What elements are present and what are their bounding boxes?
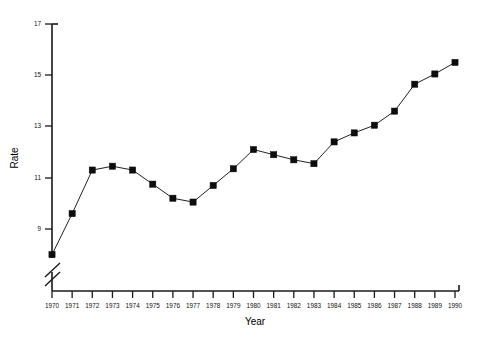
- x-tick-label-1970: 1970: [45, 302, 60, 309]
- data-point-1990: [452, 59, 458, 65]
- data-point-1979: [230, 166, 236, 172]
- y-tick-label-15: 15: [34, 71, 42, 78]
- data-point-1989: [432, 71, 438, 77]
- y-tick-label-13: 13: [34, 122, 42, 129]
- x-tick-label-1988: 1988: [408, 302, 423, 309]
- data-point-1972: [89, 167, 95, 173]
- data-point-1983: [311, 161, 317, 167]
- y-tick-label-9: 9: [37, 225, 41, 232]
- data-point-1974: [130, 167, 136, 173]
- x-tick-labels: 1970197119721973197419751976197719781979…: [45, 302, 463, 309]
- x-tick-label-1972: 1972: [85, 302, 100, 309]
- data-point-1976: [170, 195, 176, 201]
- data-point-1986: [371, 122, 377, 128]
- x-tick-label-1975: 1975: [146, 302, 161, 309]
- x-tick-label-1971: 1971: [65, 302, 80, 309]
- y-axis-title: Rate: [9, 147, 20, 169]
- x-tick-label-1979: 1979: [226, 302, 241, 309]
- line-chart-svg: 17 15 13 11 9 Rate Year 1970197119721973…: [0, 0, 486, 338]
- data-point-1980: [250, 146, 256, 152]
- x-tick-label-1974: 1974: [125, 302, 140, 309]
- data-point-1970: [49, 252, 55, 258]
- data-point-1984: [331, 139, 337, 145]
- x-tick-label-1987: 1987: [387, 302, 402, 309]
- data-point-1981: [271, 152, 277, 158]
- data-point-1978: [210, 182, 216, 188]
- x-tick-label-1976: 1976: [166, 302, 181, 309]
- x-tick-label-1973: 1973: [105, 302, 120, 309]
- x-axis-title: Year: [245, 316, 266, 327]
- data-point-1982: [291, 157, 297, 163]
- data-point-1987: [391, 108, 397, 114]
- x-tick-label-1990: 1990: [448, 302, 463, 309]
- chart-background: [0, 0, 486, 338]
- data-point-1985: [351, 130, 357, 136]
- x-tick-label-1981: 1981: [267, 302, 282, 309]
- x-tick-label-1985: 1985: [347, 302, 362, 309]
- x-tick-label-1983: 1983: [307, 302, 322, 309]
- chart-figure: 17 15 13 11 9 Rate Year 1970197119721973…: [0, 0, 486, 338]
- x-tick-label-1982: 1982: [287, 302, 302, 309]
- x-tick-label-1978: 1978: [206, 302, 221, 309]
- data-point-1975: [150, 181, 156, 187]
- y-tick-label-11: 11: [34, 174, 41, 181]
- data-point-1977: [190, 199, 196, 205]
- x-tick-label-1980: 1980: [246, 302, 261, 309]
- x-tick-label-1984: 1984: [327, 302, 342, 309]
- data-point-1971: [69, 211, 75, 217]
- x-tick-label-1989: 1989: [428, 302, 443, 309]
- x-tick-label-1986: 1986: [367, 302, 382, 309]
- data-point-1973: [109, 163, 115, 169]
- x-tick-label-1977: 1977: [186, 302, 201, 309]
- y-tick-label-17: 17: [34, 20, 42, 27]
- data-point-1988: [412, 81, 418, 87]
- x-tick-marks: [52, 291, 455, 298]
